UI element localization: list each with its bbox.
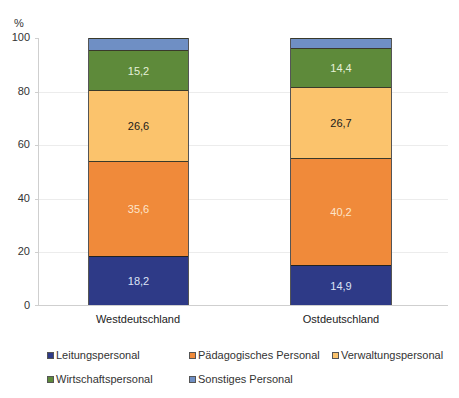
legend-item-verwaltungspersonal: Verwaltungspersonal bbox=[332, 349, 443, 361]
bar-segment bbox=[291, 38, 391, 48]
legend-swatch-icon bbox=[332, 352, 339, 359]
x-category-label: Ostdeutschland bbox=[271, 313, 411, 325]
legend-swatch-icon bbox=[189, 376, 196, 383]
data-label: 15,2 bbox=[128, 65, 149, 77]
bar-segment: 40,2 bbox=[291, 158, 391, 265]
data-label: 14,9 bbox=[330, 280, 351, 292]
y-tick-label-100: 100 bbox=[0, 31, 30, 43]
data-label: 14,4 bbox=[330, 62, 351, 74]
legend-label: Verwaltungspersonal bbox=[341, 349, 443, 361]
y-tick-label-40: 40 bbox=[0, 192, 30, 204]
bar-segment: 14,4 bbox=[291, 48, 391, 86]
x-category-label: Westdeutschland bbox=[68, 313, 208, 325]
y-axis bbox=[38, 38, 39, 306]
legend-swatch-icon bbox=[47, 352, 54, 359]
y-tick-40 bbox=[35, 199, 39, 200]
bar-ostdeutschland: 14,940,226,714,4 bbox=[290, 38, 392, 305]
y-tick-100 bbox=[35, 38, 39, 39]
data-label: 35,6 bbox=[128, 203, 149, 215]
legend-label: Wirtschaftspersonal bbox=[56, 373, 153, 385]
y-axis-unit: % bbox=[14, 17, 24, 29]
legend-item-sonstiges-personal: Sonstiges Personal bbox=[189, 373, 293, 385]
x-axis bbox=[35, 305, 448, 306]
bar-westdeutschland: 18,235,626,615,2 bbox=[88, 38, 189, 305]
bar-segment: 15,2 bbox=[89, 50, 188, 91]
bar-segment: 18,2 bbox=[89, 256, 188, 305]
legend-item-wirtschaftspersonal: Wirtschaftspersonal bbox=[47, 373, 153, 385]
y-tick-label-80: 80 bbox=[0, 85, 30, 97]
legend-swatch-icon bbox=[47, 376, 54, 383]
bar-segment: 14,9 bbox=[291, 265, 391, 305]
y-tick-label-60: 60 bbox=[0, 138, 30, 150]
data-label: 40,2 bbox=[330, 206, 351, 218]
legend-item-paedagogisches-personal: Pädagogisches Personal bbox=[189, 349, 320, 361]
y-tick-label-20: 20 bbox=[0, 245, 30, 257]
data-label: 18,2 bbox=[128, 275, 149, 287]
bar-segment: 35,6 bbox=[89, 161, 188, 256]
legend-label: Leitungspersonal bbox=[56, 349, 140, 361]
legend-swatch-icon bbox=[189, 352, 196, 359]
y-tick-60 bbox=[35, 145, 39, 146]
bar-segment: 26,6 bbox=[89, 90, 188, 161]
data-label: 26,6 bbox=[128, 120, 149, 132]
y-tick-label-0: 0 bbox=[0, 299, 30, 311]
legend-label: Pädagogisches Personal bbox=[198, 349, 320, 361]
bar-segment bbox=[89, 38, 188, 50]
data-label: 26,7 bbox=[330, 117, 351, 129]
bar-segment: 26,7 bbox=[291, 87, 391, 158]
legend-item-leitungspersonal: Leitungspersonal bbox=[47, 349, 140, 361]
legend-label: Sonstiges Personal bbox=[198, 373, 293, 385]
y-tick-20 bbox=[35, 252, 39, 253]
y-tick-80 bbox=[35, 92, 39, 93]
